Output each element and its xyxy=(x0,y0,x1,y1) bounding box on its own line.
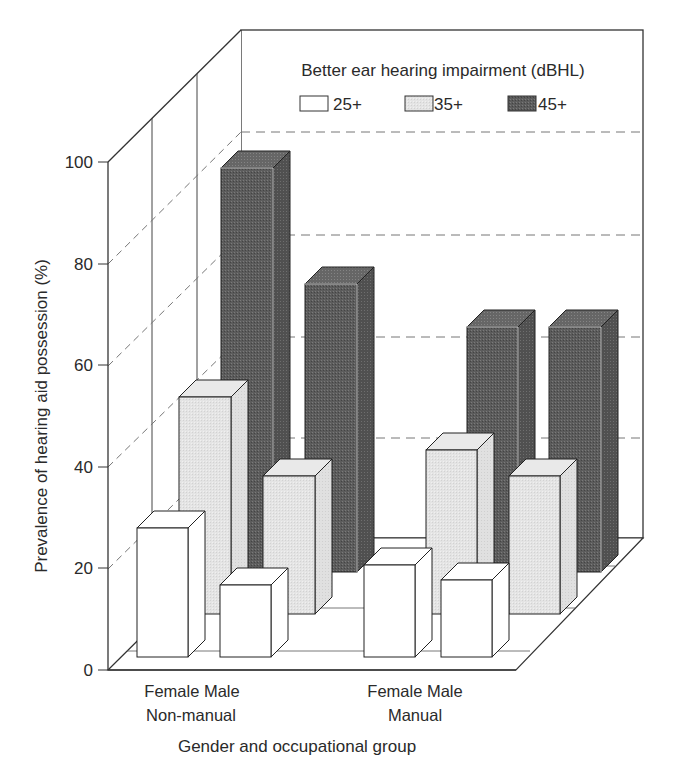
y-tick-60: 60 xyxy=(74,356,93,375)
bar-25-manual-female xyxy=(364,548,432,657)
legend-swatch-25plus xyxy=(300,96,328,111)
group2-name: Manual xyxy=(388,706,442,724)
group1-genders: Female Male xyxy=(144,682,239,700)
y-tick-100: 100 xyxy=(65,153,93,172)
y-axis-label: Prevalence of hearing aid possession (%) xyxy=(32,259,51,573)
legend-title: Better ear hearing impairment (dBHL) xyxy=(301,61,584,80)
x-axis-label: Gender and occupational group xyxy=(178,737,416,756)
legend-swatch-35plus xyxy=(405,96,433,111)
svg-text:45+: 45+ xyxy=(538,95,567,114)
svg-text:25+: 25+ xyxy=(333,95,362,114)
y-tick-0: 0 xyxy=(84,661,93,680)
y-tick-80: 80 xyxy=(74,255,93,274)
y-tick-40: 40 xyxy=(74,458,93,477)
legend-item-45plus: 45+ xyxy=(508,95,567,114)
bar-25-manual-male xyxy=(441,563,509,657)
chart: 0 20 40 60 80 100 Prevalence of hearing … xyxy=(0,0,674,782)
group1-name: Non-manual xyxy=(146,706,236,724)
group2-genders: Female Male xyxy=(367,682,462,700)
bar-35-manual-male xyxy=(509,459,577,614)
bar-25-nonmanual-female xyxy=(137,511,205,657)
svg-text:35+: 35+ xyxy=(434,95,463,114)
y-tick-20: 20 xyxy=(74,559,93,578)
legend-item-35plus: 35+ xyxy=(405,95,463,114)
legend-swatch-45plus xyxy=(508,96,536,111)
bar-25-nonmanual-male xyxy=(220,568,288,657)
x-axis-labels: Female Male Non-manual Female Male Manua… xyxy=(144,682,462,756)
